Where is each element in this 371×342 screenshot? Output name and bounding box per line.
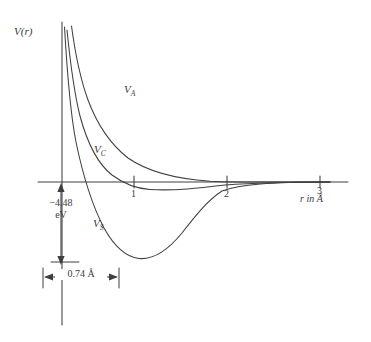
- depth-value-label: −4.48: [35, 198, 87, 209]
- x-tick-label-3: 3: [317, 186, 322, 197]
- curve-label-v-c-sub: C: [101, 149, 106, 158]
- bond-length-arrowhead-right: [109, 273, 118, 280]
- curve-label-v-a: VA: [124, 84, 135, 98]
- curve-label-v-c-text: V: [94, 143, 101, 155]
- curve-v-a: [72, 26, 331, 182]
- curve-label-v-c: VC: [94, 144, 106, 158]
- y-axis-label: V(r): [14, 26, 32, 38]
- x-tick-label-1: 1: [131, 189, 136, 200]
- curve-label-v-a-sub: A: [131, 89, 136, 98]
- curve-label-v-a-text: V: [124, 83, 131, 95]
- curve-v-s: [65, 27, 331, 259]
- x-tick-label-2: 2: [224, 189, 229, 200]
- curve-v-c: [67, 30, 330, 190]
- depth-unit-label: eV: [35, 210, 87, 221]
- curve-label-v-s-text: V: [93, 217, 100, 229]
- bond-length-label: 0.74 Å: [55, 269, 107, 280]
- bond-length-arrowhead-left: [44, 273, 53, 280]
- depth-arrowhead-up: [57, 183, 64, 192]
- curve-label-v-s: VS: [93, 218, 103, 232]
- depth-arrowhead-down: [57, 256, 64, 265]
- potential-energy-diagram: V(r) r in Å 1 2 3 VA VC VS −4.48 eV 0.74…: [0, 0, 371, 342]
- curve-label-v-s-sub: S: [100, 223, 104, 232]
- chart-canvas: [0, 0, 371, 342]
